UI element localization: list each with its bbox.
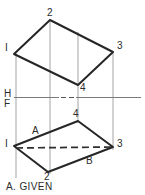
- horizontal-view-quad: [14, 20, 113, 85]
- vertex-label-top-3: 3: [117, 41, 123, 51]
- vertex-label-bottom-3: 3: [117, 139, 123, 149]
- vertex-label-top-2: 2: [47, 8, 53, 18]
- technical-drawing: [0, 0, 145, 195]
- horizontal-view-outline: [14, 20, 113, 85]
- figure-caption: A. GIVEN: [6, 181, 53, 192]
- vertex-label-top-4: 4: [80, 83, 86, 93]
- point-label-a: A: [32, 126, 39, 136]
- vertex-label-bottom-4: 4: [73, 109, 79, 119]
- reference-line-label-f: F: [4, 99, 10, 109]
- figure-container: I 2 3 4 I 4 3 2 A B H F A. GIVEN: [0, 0, 145, 195]
- vertex-label-bottom-1: I: [5, 139, 8, 149]
- point-label-b: B: [86, 156, 93, 166]
- line-a-b-hidden: [16, 147, 113, 148]
- line-a-b-dashed: [16, 147, 113, 148]
- vertex-label-top-1: I: [5, 43, 8, 53]
